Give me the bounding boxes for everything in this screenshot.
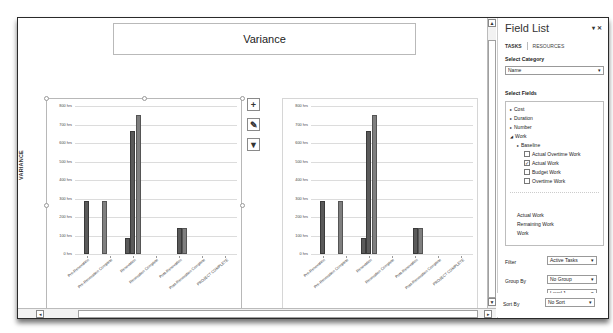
checkbox-icon[interactable]	[524, 169, 530, 175]
y-axis-tick-label: 700 hrs	[284, 123, 308, 127]
collapsed-arrow-icon[interactable]: ▸	[510, 107, 512, 112]
pane-menu-close-icon[interactable]: ▾ ✕	[592, 24, 602, 31]
resize-handle[interactable]	[240, 203, 245, 208]
checked-checkbox-icon[interactable]: ✓	[524, 160, 530, 166]
scroll-left-arrow-icon[interactable]: ◂	[36, 310, 44, 318]
category-value: Name	[508, 67, 521, 73]
scroll-up-arrow-icon[interactable]: ▲	[488, 19, 496, 27]
horizontal-scroll-thumb[interactable]	[78, 310, 478, 318]
fields-tree[interactable]: ▸Cost▸Duration▸Number◢Work▸BaselineActua…	[505, 101, 604, 246]
bar-pre-renovation[interactable]	[320, 201, 325, 254]
x-axis-label: Pre-Renovation	[303, 258, 326, 278]
y-axis-tick-label: 200 hrs	[284, 215, 308, 219]
field-overtime-work[interactable]: Overtime Work	[524, 178, 565, 184]
sort-by-dropdown[interactable]: No Sort ▾	[545, 298, 595, 307]
resize-handle[interactable]	[142, 96, 147, 101]
gridline	[311, 180, 473, 181]
bar-post-renovation[interactable]	[182, 228, 187, 254]
bar-pre-renovation-complete[interactable]	[338, 201, 343, 254]
chart-filters-button[interactable]: ▼	[247, 138, 260, 151]
chart-styles-button[interactable]: ✎	[247, 118, 260, 131]
tab-tasks[interactable]: TASKS	[505, 43, 522, 50]
bar-post-renovation[interactable]	[418, 228, 423, 254]
gridline	[75, 217, 237, 218]
y-axis-tick-label: 800 hrs	[284, 104, 308, 108]
gridline	[311, 143, 473, 144]
sort-row: Sort By No Sort ▾	[496, 293, 608, 317]
group-by-dropdown[interactable]: No Group ▾	[547, 275, 597, 284]
y-axis-tick-label: 200 hrs	[48, 215, 72, 219]
resize-handle[interactable]	[240, 96, 245, 101]
gridline	[75, 162, 237, 163]
bar-pre-renovation[interactable]	[84, 201, 89, 254]
bar-renovation[interactable]	[136, 115, 141, 254]
report-title-box[interactable]: Variance	[113, 23, 416, 55]
field-budget-work[interactable]: Budget Work	[524, 169, 561, 175]
selected-field-work[interactable]: Work	[517, 230, 529, 236]
x-axis-labels: Pre-RenovationPre-Renovation CompleteRen…	[75, 256, 237, 306]
checkbox-icon[interactable]	[524, 178, 530, 184]
category-dropdown[interactable]: Name ▾	[505, 66, 604, 75]
variance-chart-2[interactable]: 0 hrs100 hrs200 hrs300 hrs400 hrs500 hrs…	[282, 98, 478, 308]
field-baseline[interactable]: ▸Baseline	[517, 142, 540, 148]
vertical-scroll-thumb[interactable]	[488, 40, 496, 298]
bar-renovation[interactable]	[125, 238, 130, 254]
field-label: Duration	[514, 115, 533, 121]
report-canvas: Variance VARIANCE 0 hrs100 hrs200 hrs300…	[18, 18, 486, 308]
field-actual-overtime-work[interactable]: Actual Overtime Work	[524, 151, 581, 157]
gridline	[75, 254, 237, 255]
field-duration[interactable]: ▸Duration	[510, 115, 533, 121]
bar-post-renovation[interactable]	[413, 228, 418, 254]
selected-field-actual-work[interactable]: Actual Work	[517, 212, 544, 218]
variance-side-label: VARIANCE	[20, 148, 34, 188]
selected-field-remaining-work[interactable]: Remaining Work	[517, 221, 554, 227]
resize-handle[interactable]	[44, 203, 49, 208]
gridline	[75, 106, 237, 107]
collapsed-arrow-icon[interactable]: ▸	[510, 125, 512, 130]
fields-separator	[510, 192, 599, 193]
select-fields-label: Select Fields	[505, 90, 537, 96]
bar-renovation[interactable]	[130, 131, 135, 254]
field-label: Number	[514, 124, 532, 130]
filter-dropdown[interactable]: Active Tasks ▾	[547, 256, 597, 265]
bar-renovation[interactable]	[372, 115, 377, 254]
plot-area: 0 hrs100 hrs200 hrs300 hrs400 hrs500 hrs…	[311, 106, 473, 254]
resize-handle[interactable]	[44, 96, 49, 101]
field-work[interactable]: ◢Work	[510, 133, 527, 139]
gridline	[75, 125, 237, 126]
field-actual-work[interactable]: ✓Actual Work	[524, 160, 559, 166]
gridline	[75, 236, 237, 237]
bar-pre-renovation-complete[interactable]	[102, 201, 107, 254]
horizontal-scrollbar[interactable]: ◂ ▸	[18, 308, 496, 318]
gridline	[75, 180, 237, 181]
collapsed-arrow-icon[interactable]: ▸	[510, 116, 512, 121]
chart-elements-button[interactable]: +	[247, 98, 260, 111]
y-axis-tick-label: 600 hrs	[284, 141, 308, 145]
bar-renovation[interactable]	[366, 131, 371, 254]
group-by-value: No Group	[550, 276, 572, 282]
field-label: Baseline	[521, 142, 540, 148]
tab-resources[interactable]: RESOURCES	[533, 43, 565, 50]
field-label: Overtime Work	[532, 178, 565, 184]
scroll-down-arrow-icon[interactable]: ▼	[488, 298, 496, 306]
collapsed-arrow-icon[interactable]: ▸	[517, 143, 519, 148]
variance-chart-1[interactable]: 0 hrs100 hrs200 hrs300 hrs400 hrs500 hrs…	[46, 98, 242, 308]
x-axis-label: Renovation	[355, 258, 372, 273]
group-by-label: Group By	[505, 278, 526, 284]
checkbox-icon[interactable]	[524, 151, 530, 157]
sort-by-label: Sort By	[503, 301, 519, 307]
gridline	[311, 106, 473, 107]
bar-post-renovation[interactable]	[177, 228, 182, 254]
field-label: Work	[515, 133, 527, 139]
variance-side-label-text: VARIANCE	[18, 150, 24, 180]
field-cost[interactable]: ▸Cost	[510, 106, 524, 112]
y-axis-tick-label: 800 hrs	[48, 104, 72, 108]
x-axis-labels: Pre-RenovationPre-Renovation CompleteRen…	[311, 256, 473, 306]
field-number[interactable]: ▸Number	[510, 124, 532, 130]
scroll-right-arrow-icon[interactable]: ▸	[484, 310, 492, 318]
vertical-scrollbar[interactable]: ▲ ▼	[487, 18, 496, 308]
y-axis-tick-label: 500 hrs	[48, 160, 72, 164]
expanded-arrow-icon[interactable]: ◢	[510, 134, 513, 139]
bar-renovation[interactable]	[361, 238, 366, 254]
plot-area: 0 hrs100 hrs200 hrs300 hrs400 hrs500 hrs…	[75, 106, 237, 254]
